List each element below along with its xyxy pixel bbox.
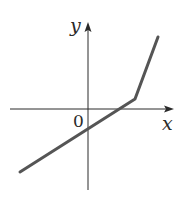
x-axis-label: x: [162, 114, 173, 133]
function-graph: [0, 0, 177, 200]
origin-label: 0: [73, 113, 84, 130]
y-axis-label: y: [70, 16, 81, 35]
function-curve: [20, 37, 158, 172]
